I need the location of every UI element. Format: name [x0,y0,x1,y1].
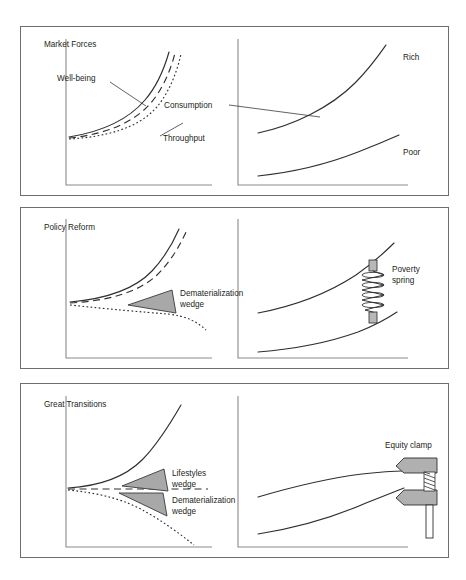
spring-bottom-cap [369,312,377,323]
lifestyles-wedge-label-line1: Lifestyles [172,469,206,478]
label-consumption: Consumption [164,101,213,110]
label-poor: Poor [403,148,421,157]
lifestyles-wedge-label-line2: wedge [171,480,197,489]
panel-great-transitions: Great Transitions Lifestyles wedge Demat… [21,384,449,558]
dematerialization-wedge-label-line1: Dematerialization [180,289,244,298]
dematerialization-wedge-label-line2: wedge [171,507,197,516]
figure-root: Market Forces Well-being Consumption Thr… [0,0,466,580]
panel-frame [21,27,449,196]
clamp-lower-jaw [396,490,437,505]
panel-policy-reform: Policy Reform Dematerialization wedge Po… [21,208,449,369]
panel-title: Great Transitions [44,400,106,409]
panel-market-forces: Market Forces Well-being Consumption Thr… [21,27,449,196]
panel-title: Market Forces [44,40,96,49]
label-throughput: Throughput [163,134,206,143]
clamp-upper-jaw [396,458,437,473]
dematerialization-wedge-label-line1: Dematerialization [172,496,236,505]
spring-top-cap [369,260,377,271]
label-rich: Rich [403,53,420,62]
poverty-spring-label-line1: Poverty [392,265,421,274]
dematerialization-wedge-label-line2: wedge [179,300,205,309]
scenario-diagram: Market Forces Well-being Consumption Thr… [0,0,466,580]
clamp-shaft [426,505,433,538]
equity-clamp-label: Equity clamp [385,441,432,450]
label-well-being: Well-being [57,74,96,83]
poverty-spring-label-line2: spring [392,276,415,285]
panel-title: Policy Reform [44,223,95,232]
clamp-screw [424,472,435,491]
panel-frame [21,384,449,558]
